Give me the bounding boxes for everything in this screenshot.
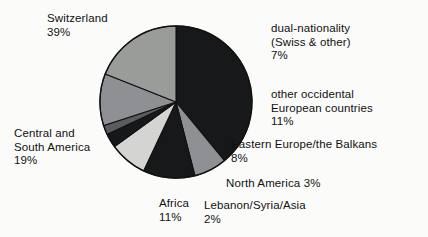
slice-label-dual-line1: dual-nationality — [271, 22, 350, 34]
slice-label-occidental-line1: other occidental — [271, 88, 354, 100]
slice-label-lebanon-line1: Lebanon/Syria/Asia — [204, 199, 306, 211]
slice-label-occidental-line2: European countries — [271, 102, 373, 114]
slice-label-switzerland: Switzerland 39% — [47, 12, 108, 39]
slice-label-central-line2: South America — [14, 141, 90, 153]
slice-label-north-america: North America 3% — [226, 177, 321, 191]
slice-label-northamerica-line1: North America 3% — [226, 177, 321, 189]
slice-label-central-south-america: Central and South America 19% — [14, 127, 90, 168]
slice-label-switzerland-line2: 39% — [47, 26, 70, 38]
slice-label-other-occidental-european: other occidental European countries 11% — [271, 88, 373, 129]
slice-label-dual-line3: 7% — [271, 49, 288, 61]
pie-chart-figure: Switzerland 39% dual-nationality (Swiss … — [0, 0, 428, 237]
slice-label-central-line3: 19% — [14, 154, 37, 166]
slice-label-eastern-europe-balkans: Eastern Europe/the Balkans 8% — [231, 138, 377, 165]
slice-label-dual-line2: (Swiss & other) — [271, 36, 351, 48]
slice-label-eastern-line2: 8% — [231, 152, 248, 164]
slice-label-dual-nationality: dual-nationality (Swiss & other) 7% — [271, 22, 351, 63]
slice-label-central-line1: Central and — [14, 127, 75, 139]
pie-slices-group — [100, 26, 252, 178]
slice-label-africa-line2: 11% — [159, 211, 182, 223]
slice-label-eastern-line1: Eastern Europe/the Balkans — [231, 138, 377, 150]
slice-label-switzerland-line1: Switzerland — [47, 12, 108, 24]
slice-label-occidental-line3: 11% — [271, 115, 294, 127]
slice-label-lebanon-line2: 2% — [204, 213, 221, 225]
slice-label-africa: Africa 11% — [159, 197, 189, 224]
slice-label-africa-line1: Africa — [159, 197, 189, 209]
slice-label-lebanon-syria-asia: Lebanon/Syria/Asia 2% — [204, 199, 306, 226]
